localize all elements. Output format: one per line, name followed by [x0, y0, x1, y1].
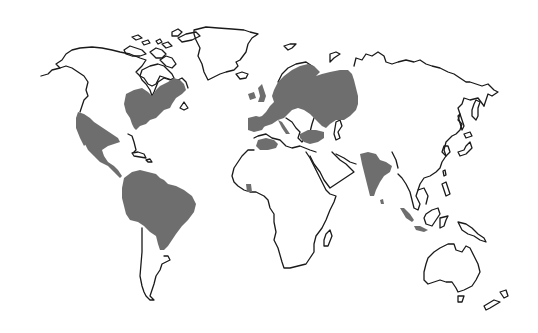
west-coast-outline — [60, 66, 88, 112]
new-zealand-outline — [500, 290, 508, 298]
florida-outline — [128, 134, 136, 152]
philippines-outline — [442, 182, 450, 196]
region-northern-south-america — [122, 170, 196, 250]
region-north-africa — [256, 138, 278, 150]
arctic-island — [160, 56, 176, 68]
region-eastern-north-america — [124, 78, 186, 130]
region-sumatra — [400, 208, 414, 222]
region-europe-western-russia — [250, 64, 358, 130]
arctic-island — [132, 35, 142, 40]
region-iberia — [248, 116, 266, 132]
region-india — [360, 152, 392, 196]
new-zealand-outline — [484, 300, 500, 310]
indochina-coast-outline — [392, 152, 398, 168]
borneo-outline — [424, 208, 440, 226]
cuba-outline — [132, 152, 146, 158]
tasmania-outline — [458, 296, 464, 302]
new-guinea-outline — [458, 222, 486, 242]
region-italy — [278, 120, 290, 134]
svalbard-outline — [284, 44, 296, 50]
taiwan-outline — [443, 170, 446, 176]
hispaniola-outline — [146, 159, 152, 162]
sulawesi-outline — [440, 216, 448, 228]
world-map — [0, 0, 538, 333]
east-asia-coast-outline — [418, 98, 484, 190]
region-britain — [258, 84, 266, 102]
greenland-outline — [194, 27, 258, 80]
australia-outline — [424, 244, 480, 292]
arctic-island — [150, 48, 166, 58]
region-west-africa — [246, 184, 252, 192]
region-mexico-central-america — [76, 112, 122, 178]
arctic-island — [156, 39, 162, 44]
kamchatka-outline — [472, 100, 480, 120]
africa-outline — [232, 150, 336, 268]
region-anatolia — [300, 130, 324, 144]
japan-outline — [464, 132, 472, 138]
arctic-island — [142, 40, 150, 45]
japan-outline — [458, 142, 472, 156]
region-java — [414, 226, 428, 232]
novaya-zemlya-outline — [330, 52, 340, 62]
iceland-outline — [236, 72, 248, 79]
region-sri-lanka — [380, 199, 384, 204]
arctic-island — [162, 42, 172, 48]
region-ireland — [248, 92, 256, 100]
caspian-outline — [334, 120, 342, 140]
newfoundland-outline — [180, 102, 188, 110]
arctic-island — [124, 46, 146, 56]
madagascar-outline — [324, 230, 332, 246]
arctic-island — [172, 29, 182, 36]
